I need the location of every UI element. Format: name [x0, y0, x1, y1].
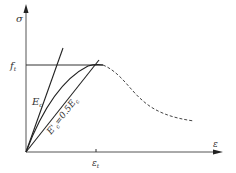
peak-stress-label: ft	[9, 60, 17, 72]
descending-dashed-curve	[103, 65, 194, 121]
y-axis-label: σ	[16, 13, 24, 24]
stress-strain-diagram: σ ε ft εt Ec E'c=0.5Ec	[0, 0, 236, 173]
x-axis-arrow-icon	[213, 150, 223, 155]
x-axis-label: ε	[213, 139, 218, 149]
y-axis-arrow-icon	[24, 4, 29, 13]
secant-modulus-label: E'c=0.5Ec	[44, 95, 81, 138]
peak-strain-label: εt	[92, 158, 100, 169]
initial-modulus-label: Ec	[31, 96, 43, 108]
